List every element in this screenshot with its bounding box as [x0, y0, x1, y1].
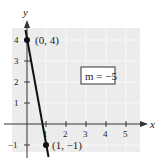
slope-chart: x y 1 2 3 4 5 4 3 2 1 −1 (0, 4) (1, −1) …	[0, 0, 159, 163]
point-label-0-4: (0, 4)	[35, 34, 59, 47]
y-tick-3: 3	[14, 56, 19, 66]
x-tick-5: 5	[123, 129, 128, 139]
y-axis-label: y	[22, 6, 28, 18]
point-0-4	[24, 37, 30, 43]
plot-area	[12, 28, 140, 152]
x-tick-3: 3	[83, 129, 88, 139]
point-1-neg1	[43, 142, 49, 148]
x-axis-label: x	[149, 118, 155, 130]
y-tick-1: 1	[14, 98, 19, 108]
y-tick-2: 2	[14, 77, 19, 87]
y-axis-arrow-icon	[24, 20, 30, 28]
slope-label: m = −5	[85, 70, 117, 82]
point-label-1-neg1: (1, −1)	[52, 139, 82, 152]
x-axis-arrow-icon	[140, 121, 148, 127]
x-tick-4: 4	[103, 129, 108, 139]
x-tick-2: 2	[63, 129, 68, 139]
y-tick-4: 4	[14, 35, 19, 45]
y-tick-neg1: −1	[8, 140, 18, 150]
